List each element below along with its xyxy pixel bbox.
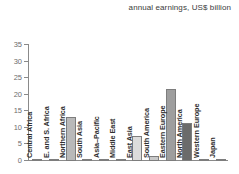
bar-e-and-s-africa[interactable] [49, 159, 59, 161]
category-label: South Asia [75, 121, 84, 158]
category-label: E. and S. Africa [42, 106, 51, 158]
y-tick-label: 5 [2, 139, 22, 148]
bar-chart: annual earnings, US$ billion 05101520253… [0, 0, 239, 174]
y-tick-mark [24, 94, 28, 95]
bar-asia-pacific[interactable] [99, 159, 109, 161]
bar-slot: Central Africa [32, 40, 42, 161]
bar-western-europe[interactable] [199, 159, 209, 161]
bar-slot: South Asia [82, 40, 92, 161]
bar-slot: North America [182, 40, 192, 161]
bar-japan[interactable] [216, 159, 226, 161]
category-label: Asia–Pacific [92, 116, 101, 158]
category-label: Northern Africa [58, 106, 67, 158]
category-label: Japan [208, 137, 217, 158]
y-tick-mark [24, 61, 28, 62]
category-label: Central Africa [25, 112, 34, 158]
plot-area: 05101520253035 Central AfricaE. and S. A… [28, 40, 230, 164]
category-label: North America [175, 109, 184, 158]
bar-middle-east[interactable] [116, 159, 126, 161]
category-label: East Asia [125, 126, 134, 158]
bar-central-africa[interactable] [32, 159, 42, 161]
y-tick-label: 25 [2, 73, 22, 82]
chart-title: annual earnings, US$ billion [129, 3, 231, 12]
category-label: Middle East [108, 119, 117, 158]
y-tick-label: 15 [2, 106, 22, 115]
bar-slot: East Asia [132, 40, 142, 161]
category-label: Eastern Europe [158, 105, 167, 158]
y-tick-label: 30 [2, 56, 22, 65]
category-label: Western Europe [192, 104, 201, 158]
y-tick-mark [24, 44, 28, 45]
y-tick-label: 10 [2, 122, 22, 131]
y-tick-label: 35 [2, 40, 22, 49]
bar-south-asia[interactable] [82, 159, 92, 161]
y-tick-label: 0 [2, 156, 22, 165]
y-tick-mark [24, 160, 28, 161]
bars-group: Central AfricaE. and S. AfricaNorthern A… [29, 40, 229, 161]
bar-slot: Japan [216, 40, 226, 161]
y-tick-label: 20 [2, 89, 22, 98]
category-label: South America [142, 108, 151, 158]
y-tick-mark [24, 77, 28, 78]
